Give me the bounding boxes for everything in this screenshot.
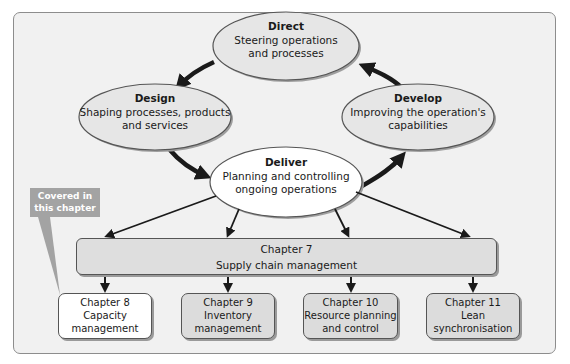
develop-title: Develop <box>342 92 494 105</box>
covered-callout: Covered in this chapter <box>30 188 100 217</box>
develop-desc-line1: Improving the operation's <box>342 106 494 119</box>
design-desc-line2: and services <box>79 119 231 132</box>
deliver-title: Deliver <box>210 156 362 169</box>
arrow-deliver-ch7-4 <box>356 192 468 236</box>
deliver-node: Deliver Planning and controlling ongoing… <box>210 156 362 196</box>
arrow-deliver-to-develop <box>362 156 402 186</box>
develop-node: Develop Improving the operation's capabi… <box>342 92 494 132</box>
chapter-11-line1: Lean <box>427 310 519 323</box>
design-node: Design Shaping processes, products and s… <box>79 92 231 132</box>
deliver-desc-line2: ongoing operations <box>210 183 362 196</box>
chapter-10-number: Chapter 10 <box>304 297 397 310</box>
chapter-8-line1: Capacity <box>59 310 151 323</box>
supply-chain-box: Chapter 7 Supply chain management <box>76 238 497 275</box>
callout-line1: Covered in <box>30 191 100 203</box>
deliver-desc-line1: Planning and controlling <box>210 170 362 183</box>
arrow-design-to-deliver <box>170 150 206 176</box>
arrow-direct-to-design <box>179 62 214 86</box>
chapter-8-number: Chapter 8 <box>59 297 151 310</box>
arrow-deliver-ch7-3 <box>335 209 348 235</box>
chapter-9-line2: management <box>182 323 274 336</box>
direct-desc-line2: and processes <box>213 47 359 60</box>
supply-chain-label: Supply chain management <box>77 257 496 273</box>
chapter-8-box: Chapter 8 Capacity management <box>58 293 152 339</box>
callout-line2: this chapter <box>30 203 100 215</box>
direct-desc-line1: Steering operations <box>213 34 359 47</box>
direct-title: Direct <box>213 20 359 33</box>
arrow-deliver-ch7-1 <box>107 196 216 236</box>
develop-desc-line2: capabilities <box>342 119 494 132</box>
chapter-10-line2: and control <box>304 323 397 336</box>
chapter-9-line1: Inventory <box>182 310 274 323</box>
design-title: Design <box>79 92 231 105</box>
design-desc-line1: Shaping processes, products <box>79 106 231 119</box>
chapter-9-box: Chapter 9 Inventory management <box>181 293 275 339</box>
chapter-10-line1: Resource planning <box>304 310 397 323</box>
chapter-10-box: Chapter 10 Resource planning and control <box>303 293 398 339</box>
chapter-8-line2: management <box>59 323 151 336</box>
supply-chain-chapter: Chapter 7 <box>77 241 496 257</box>
chapter-11-box: Chapter 11 Lean synchronisation <box>426 293 520 339</box>
callout-pointer <box>38 217 60 295</box>
direct-node: Direct Steering operations and processes <box>213 20 359 60</box>
arrow-deliver-ch7-2 <box>228 209 239 235</box>
chapter-11-number: Chapter 11 <box>427 297 519 310</box>
chapter-11-line2: synchronisation <box>427 323 519 336</box>
chapter-9-number: Chapter 9 <box>182 297 274 310</box>
